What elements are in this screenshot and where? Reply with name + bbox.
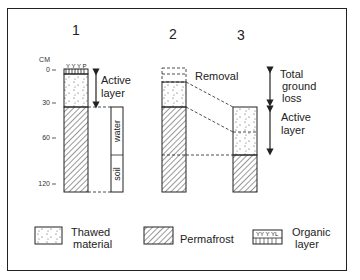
legend-thawed-line2: material [73, 238, 112, 250]
legend-permafrost-swatch [144, 227, 173, 244]
column-3-number: 3 [237, 27, 245, 43]
column-1-number: 1 [72, 22, 80, 38]
depth-tick-60: 60 [24, 134, 50, 141]
total-loss-label-line2: ground [282, 80, 316, 92]
legend-organic-swatch: YY Y YL [253, 230, 282, 244]
total-loss-label-line3: loss [282, 92, 302, 104]
svg-text:Y Y Y P: Y Y Y P [66, 63, 86, 69]
depth-tick-30: 30 [24, 99, 50, 106]
column-2-number: 2 [169, 26, 177, 42]
active-layer-label-3-line2: layer [281, 124, 305, 136]
svg-text:YY Y YL: YY Y YL [256, 231, 279, 237]
soil-label: soil [112, 161, 122, 187]
total-loss-label-line1: Total [280, 68, 303, 80]
depth-tick-0: 0 [24, 66, 50, 73]
depth-axis-ticks [52, 70, 56, 184]
active-layer-label-1-line1: Active [101, 74, 131, 86]
water-label: water [112, 116, 122, 146]
legend-thawed-line1: Thawed [71, 226, 110, 238]
active-layer-label-1-line2: layer [101, 87, 125, 99]
removal-label: Removal [195, 70, 238, 82]
legend-organic-line1: Organic [292, 226, 331, 238]
legend-organic-line2: layer [295, 238, 319, 250]
active-layer-label-3-line1: Active [281, 111, 311, 123]
depth-tick-120: 120 [24, 180, 50, 187]
column-1-profile: Y Y Y P [64, 63, 88, 192]
depth-unit-label: CM [24, 56, 50, 63]
column-3-profile [233, 107, 257, 192]
column-2-profile [162, 68, 186, 192]
legend-thawed-swatch [35, 227, 62, 244]
legend-permafrost-label: Permafrost [180, 233, 234, 245]
